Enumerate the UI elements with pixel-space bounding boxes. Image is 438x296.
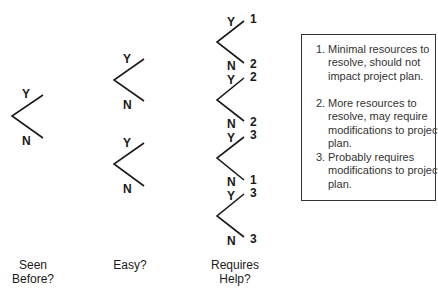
branch-no-label: N	[227, 235, 236, 247]
branch-yes-label: Y	[123, 53, 131, 65]
legend-box: 1. Minimal resources to resolve, should …	[301, 34, 436, 201]
branch-yes-label: Y	[22, 88, 30, 100]
branch-yes-label: Y	[227, 16, 235, 28]
branch-no-label: N	[22, 135, 31, 147]
branch-no-label: N	[227, 176, 236, 188]
branch-yes-label: Y	[227, 74, 235, 86]
outcome-label: 1	[250, 13, 257, 25]
outcome-label: 3	[250, 233, 257, 245]
outcome-label: 3	[250, 187, 257, 199]
branch-yes-label: Y	[227, 190, 235, 202]
branch-no-label: N	[227, 118, 236, 130]
branch-yes-label: Y	[227, 132, 235, 144]
column-label-seen-before: Seen Before?	[0, 258, 68, 286]
column-label-easy: Easy?	[95, 258, 165, 272]
branch-no-label: N	[227, 60, 236, 72]
outcome-label: 2	[250, 116, 257, 128]
outcome-label: 2	[250, 58, 257, 70]
outcome-label: 3	[250, 129, 257, 141]
branch-no-label: N	[123, 99, 132, 111]
outcome-label: 1	[250, 174, 257, 186]
branch-yes-label: Y	[123, 137, 131, 149]
outcome-label: 2	[250, 71, 257, 83]
branch-no-label: N	[123, 183, 132, 195]
column-label-requires-help: Requires Help?	[200, 258, 270, 286]
